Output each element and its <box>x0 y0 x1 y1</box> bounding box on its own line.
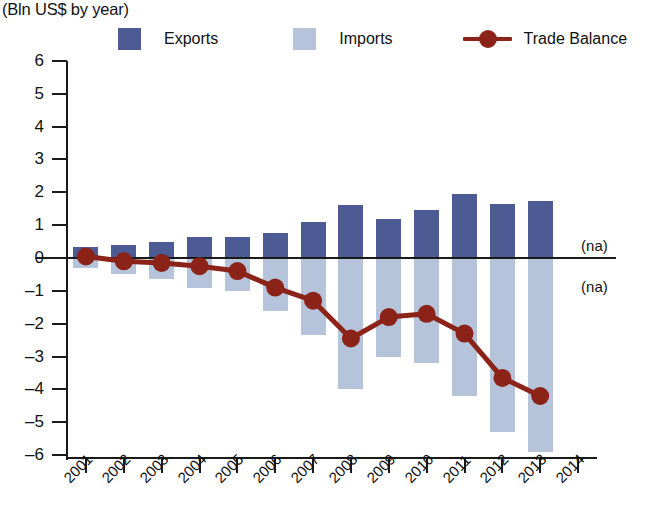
y-tick-label: 5 <box>0 85 44 102</box>
bar-imports <box>73 258 98 268</box>
bar-imports <box>490 258 515 432</box>
bar-exports <box>263 233 288 258</box>
y-tick-label: –3 <box>0 348 44 365</box>
bar-imports <box>528 258 553 452</box>
y-tick <box>52 290 67 292</box>
bar-imports <box>149 258 174 279</box>
x-tick-label: 2009 <box>363 450 399 486</box>
x-tick-label: 2008 <box>325 450 361 486</box>
x-tick-label: 2013 <box>514 450 550 486</box>
y-tick-label: –6 <box>0 446 44 463</box>
legend-item-exports: Exports <box>118 28 218 50</box>
y-tick <box>52 126 67 128</box>
x-tick-label: 2005 <box>211 450 247 486</box>
x-tick-label: 2003 <box>136 450 172 486</box>
y-tick <box>52 93 67 95</box>
x-tick-label: 2010 <box>401 450 437 486</box>
y-tick-label: 1 <box>0 216 44 233</box>
y-tick <box>52 191 67 193</box>
x-tick-label: 2006 <box>249 450 285 486</box>
trade-balance-chart: (Bln US$ by year) Exports Imports Trade … <box>0 0 666 506</box>
bar-imports <box>263 258 288 311</box>
x-tick-label: 2014 <box>552 450 588 486</box>
y-tick <box>52 421 67 423</box>
bar-imports <box>414 258 439 363</box>
bar-imports <box>452 258 477 396</box>
bar-exports <box>452 194 477 258</box>
y-tick-label: –4 <box>0 380 44 397</box>
y-tick-label: –2 <box>0 315 44 332</box>
y-tick <box>52 158 67 160</box>
y-tick-label: 3 <box>0 150 44 167</box>
zero-baseline <box>36 257 616 259</box>
x-tick-label: 2004 <box>174 450 210 486</box>
bar-exports <box>338 205 363 258</box>
x-tick-label: 2012 <box>476 450 512 486</box>
y-tick <box>52 323 67 325</box>
bar-exports <box>490 204 515 258</box>
x-tick-label: 2007 <box>287 450 323 486</box>
legend-swatch-exports-icon <box>118 28 141 50</box>
y-tick <box>52 454 67 456</box>
legend-label-imports: Imports <box>339 30 392 48</box>
na-label: (na) <box>581 278 608 295</box>
trade-balance-line-series <box>0 0 666 506</box>
y-tick <box>52 356 67 358</box>
y-axis-line <box>66 61 68 460</box>
bar-imports <box>376 258 401 357</box>
bar-exports <box>149 242 174 258</box>
bar-exports <box>376 219 401 258</box>
y-tick-label: 6 <box>0 52 44 69</box>
bar-exports <box>301 222 326 258</box>
y-tick-label: –5 <box>0 413 44 430</box>
chart-legend: Exports Imports Trade Balance <box>118 26 658 52</box>
legend-label-trade-balance: Trade Balance <box>524 30 627 48</box>
y-tick-label: 4 <box>0 118 44 135</box>
bar-imports <box>338 258 363 389</box>
x-tick-label: 2002 <box>98 450 134 486</box>
legend-item-imports: Imports <box>293 28 392 50</box>
bar-exports <box>187 237 212 258</box>
y-tick <box>52 388 67 390</box>
y-tick <box>52 224 67 226</box>
bar-exports <box>225 237 250 258</box>
y-tick <box>52 60 67 62</box>
bar-imports <box>225 258 250 291</box>
bar-imports <box>301 258 326 335</box>
legend-line-marker-icon <box>463 29 512 49</box>
bar-exports <box>414 210 439 258</box>
y-tick-label: –1 <box>0 282 44 299</box>
na-label: (na) <box>581 237 608 254</box>
legend-label-exports: Exports <box>164 30 218 48</box>
y-tick-label: 2 <box>0 183 44 200</box>
legend-item-trade-balance: Trade Balance <box>463 29 627 49</box>
chart-subtitle: (Bln US$ by year) <box>2 0 129 19</box>
bar-exports <box>528 201 553 258</box>
x-axis-line <box>66 457 597 459</box>
bar-imports <box>187 258 212 288</box>
legend-swatch-imports-icon <box>293 28 316 50</box>
bar-imports <box>111 258 136 274</box>
